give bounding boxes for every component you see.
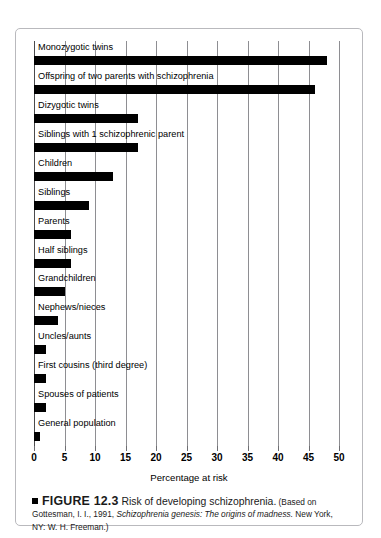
bar: [34, 432, 40, 441]
bar-row: Monozygotic twins: [34, 41, 339, 70]
x-tick-label-30: 30: [211, 452, 222, 463]
x-axis-title: Percentage at risk: [16, 472, 362, 483]
x-tick-0: [34, 446, 35, 451]
bar-row: Spouses of patients: [34, 388, 339, 417]
bar: [34, 259, 71, 268]
figure-headline-text: Risk of developing schizophrenia.: [121, 496, 276, 507]
x-tick-15: [126, 446, 127, 451]
bar-category-label: Siblings: [38, 186, 70, 199]
bar-row: Children: [34, 157, 339, 186]
bar-category-label: Siblings with 1 schizophrenic parent: [38, 128, 184, 141]
bar: [34, 230, 71, 239]
bar-row: First cousins (third degree): [34, 359, 339, 388]
bar: [34, 403, 46, 412]
x-tick-label-40: 40: [272, 452, 283, 463]
x-tick-45: [309, 446, 310, 451]
bar-category-label: Dizygotic twins: [38, 99, 99, 112]
bar-category-label: Grandchildren: [38, 272, 96, 285]
bar-row: Offspring of two parents with schizophre…: [34, 70, 339, 99]
x-tick-label-25: 25: [181, 452, 192, 463]
gridline-50: [339, 41, 340, 446]
bar: [34, 172, 113, 181]
x-tick-35: [248, 446, 249, 451]
figure-source-title: Schizophrenia genesis: The origins of ma…: [116, 509, 293, 519]
bar-row: Siblings: [34, 186, 339, 215]
bar: [34, 143, 138, 152]
x-tick-10: [95, 446, 96, 451]
x-tick-label-50: 50: [333, 452, 344, 463]
bar-category-label: Children: [38, 157, 72, 170]
x-tick-label-10: 10: [89, 452, 100, 463]
bar-row: Siblings with 1 schizophrenic parent: [34, 128, 339, 157]
x-tick-label-5: 5: [62, 452, 68, 463]
x-tick-label-35: 35: [242, 452, 253, 463]
figure-number: FIGURE 12.3: [42, 494, 119, 508]
bar: [34, 85, 315, 94]
caption-square-icon: [32, 498, 38, 504]
bar-row: Nephews/nieces: [34, 301, 339, 330]
bar-row: Dizygotic twins: [34, 99, 339, 128]
bar-row: General population: [34, 417, 339, 446]
x-tick-5: [65, 446, 66, 451]
bar-category-label: Monozygotic twins: [38, 41, 113, 54]
bar-category-label: Nephews/nieces: [38, 301, 105, 314]
figure-caption: FIGURE 12.3 Risk of developing schizophr…: [32, 495, 348, 533]
x-axis: 05101520253035404550: [34, 446, 339, 468]
bar: [34, 287, 65, 296]
bar-category-label: Parents: [38, 215, 70, 228]
bar: [34, 345, 46, 354]
bar-category-label: Uncles/aunts: [38, 330, 91, 343]
bar-category-label: Half siblings: [38, 244, 88, 257]
chart-plot-area: Monozygotic twinsOffspring of two parent…: [34, 41, 339, 446]
bar: [34, 201, 89, 210]
x-tick-25: [187, 446, 188, 451]
x-tick-label-20: 20: [150, 452, 161, 463]
bar: [34, 316, 58, 325]
x-tick-label-0: 0: [31, 452, 37, 463]
bar: [34, 374, 46, 383]
bar-row: Parents: [34, 215, 339, 244]
x-tick-30: [217, 446, 218, 451]
x-tick-label-15: 15: [120, 452, 131, 463]
bar: [34, 56, 327, 65]
x-tick-label-45: 45: [303, 452, 314, 463]
bar-row: Half siblings: [34, 244, 339, 273]
x-tick-50: [339, 446, 340, 451]
bar-category-label: General population: [38, 417, 116, 430]
figure-frame: Monozygotic twinsOffspring of two parent…: [15, 28, 363, 526]
bar-row: Uncles/aunts: [34, 330, 339, 359]
bar-category-label: Spouses of patients: [38, 388, 119, 401]
bar: [34, 114, 138, 123]
x-tick-20: [156, 446, 157, 451]
bar-category-label: First cousins (third degree): [38, 359, 147, 372]
bar-row: Grandchildren: [34, 272, 339, 301]
x-tick-40: [278, 446, 279, 451]
bar-category-label: Offspring of two parents with schizophre…: [38, 70, 214, 83]
